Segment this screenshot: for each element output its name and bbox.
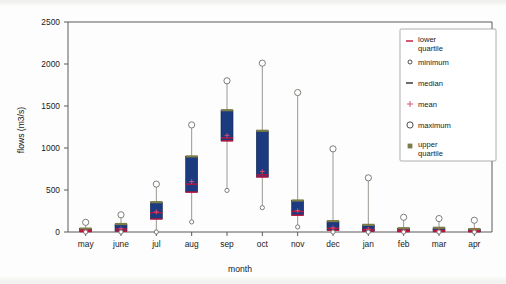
box-group-apr — [468, 217, 480, 234]
minimum-marker — [437, 230, 441, 234]
box-group-nov — [292, 89, 304, 229]
maximum-marker — [295, 89, 301, 95]
y-tick-label: 0 — [55, 227, 60, 237]
y-tick-label: 2500 — [41, 17, 60, 27]
legend-label: minimum — [418, 58, 449, 67]
x-tick-label-nov: nov — [291, 239, 305, 249]
legend-small-circle-icon — [408, 60, 412, 64]
box-group-sep — [221, 78, 233, 193]
x-axis-ticks: mayjunejulaugsepoctnovdecjanfebmarapr — [78, 232, 481, 249]
y-tick-label: 1500 — [41, 101, 60, 111]
minimum-marker — [84, 230, 88, 234]
monthly-flows-boxplot: flows (m3/s) month 05001000150020002500 … — [0, 0, 506, 284]
x-tick-label-june: june — [112, 239, 129, 249]
legend-label: upper — [418, 140, 438, 149]
legend-label: maximum — [418, 121, 451, 130]
minimum-marker — [331, 230, 335, 234]
x-tick-label-dec: dec — [326, 239, 340, 249]
maximum-marker — [153, 181, 159, 187]
y-tick-label: 500 — [46, 185, 60, 195]
legend-square-icon — [408, 144, 413, 149]
x-tick-label-jul: jul — [151, 239, 161, 249]
box-group-jul — [150, 181, 162, 234]
minimum-marker — [190, 220, 194, 224]
maximum-marker — [401, 214, 407, 220]
maximum-marker — [330, 146, 336, 152]
box-group-feb — [398, 214, 410, 234]
x-tick-label-aug: aug — [185, 239, 199, 249]
box-group-dec — [327, 146, 339, 234]
iqr-box — [292, 201, 304, 216]
x-axis-title: month — [228, 264, 252, 274]
minimum-marker — [225, 188, 229, 192]
legend-label: lower — [418, 35, 437, 44]
boxplot-figure: flows (m3/s) month 05001000150020002500 … — [0, 0, 506, 284]
legend-background — [400, 29, 496, 161]
minimum-marker — [260, 206, 264, 210]
minimum-marker — [296, 225, 300, 229]
legend-large-circle-icon — [407, 122, 413, 128]
minimum-marker — [402, 230, 406, 234]
x-tick-label-oct: oct — [257, 239, 269, 249]
maximum-marker — [365, 175, 371, 181]
maximum-marker — [83, 219, 89, 225]
maximum-marker — [189, 122, 195, 128]
box-group-june — [115, 212, 127, 234]
box-group-aug — [186, 122, 198, 224]
x-tick-label-may: may — [78, 239, 95, 249]
x-tick-label-jan: jan — [362, 239, 375, 249]
x-tick-label-mar: mar — [432, 239, 447, 249]
maximum-marker — [471, 217, 477, 223]
x-tick-label-sep: sep — [220, 239, 234, 249]
maximum-marker — [436, 215, 442, 221]
minimum-marker — [472, 230, 476, 234]
legend-label: mean — [418, 100, 437, 109]
box-group-may — [80, 219, 92, 234]
x-tick-label-apr: apr — [468, 239, 480, 249]
legend: lowerquartileminimummedianmeanmaximumupp… — [400, 29, 496, 161]
maximum-marker — [259, 60, 265, 66]
box-group-mar — [433, 215, 445, 234]
maximum-marker — [118, 212, 124, 218]
legend-label: quartile — [418, 44, 443, 53]
legend-label: median — [418, 79, 443, 88]
legend-label: quartile — [418, 149, 443, 158]
y-axis-ticks: 05001000150020002500 — [41, 17, 68, 237]
minimum-marker — [119, 230, 123, 234]
x-tick-label-feb: feb — [398, 239, 410, 249]
maximum-marker — [224, 78, 230, 84]
y-axis-title: flows (m3/s) — [16, 107, 26, 153]
box-group-jan — [362, 175, 374, 234]
box-group-oct — [256, 60, 268, 210]
minimum-marker — [154, 230, 158, 234]
iqr-box — [186, 156, 198, 192]
minimum-marker — [366, 230, 370, 234]
y-tick-label: 2000 — [41, 59, 60, 69]
y-tick-label: 1000 — [41, 143, 60, 153]
